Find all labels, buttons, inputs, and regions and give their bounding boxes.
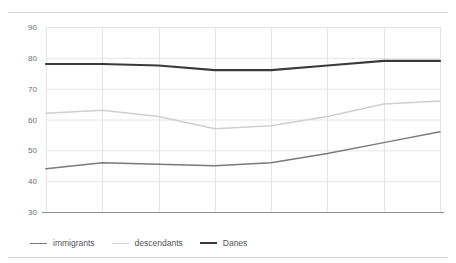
- y-tick-label-40: 40: [28, 177, 37, 186]
- y-tick-label-30: 30: [28, 208, 37, 217]
- y-tick-label-80: 80: [28, 54, 37, 63]
- chart-legend: immigrants descendants Danes: [30, 236, 264, 250]
- series-line-danes: [46, 61, 440, 70]
- legend-item-immigrants[interactable]: immigrants: [30, 238, 95, 248]
- legend-label-descendants: descendants: [135, 238, 183, 248]
- y-tick-label-50: 50: [28, 146, 37, 155]
- y-tick-label-60: 60: [28, 116, 37, 125]
- legend-label-immigrants: immigrants: [53, 238, 95, 248]
- legend-item-danes[interactable]: Danes: [200, 238, 248, 248]
- legend-swatch-descendants: [112, 243, 129, 244]
- y-tick-label-70: 70: [28, 85, 37, 94]
- series-line-descendants: [46, 101, 440, 129]
- chart-container: 30405060708090 2001200220032004200520062…: [0, 0, 456, 263]
- line-chart-svg: 30405060708090 2001200220032004200520062…: [0, 18, 456, 218]
- y-axis-tick-labels: 30405060708090: [28, 23, 37, 217]
- legend-swatch-immigrants: [30, 243, 47, 244]
- horizontal-gridlines: [46, 28, 440, 213]
- data-series-group: [46, 61, 440, 169]
- bottom-divider-rule: [8, 257, 448, 258]
- plot-area: 30405060708090 2001200220032004200520062…: [0, 18, 456, 218]
- series-line-immigrants: [46, 132, 440, 169]
- top-divider-rule: [8, 12, 448, 13]
- legend-label-danes: Danes: [223, 238, 248, 248]
- legend-swatch-danes: [200, 242, 217, 244]
- y-tick-label-90: 90: [28, 23, 37, 32]
- legend-item-descendants[interactable]: descendants: [112, 238, 183, 248]
